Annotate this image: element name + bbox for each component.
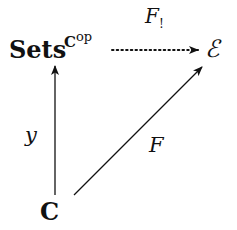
presheaf-exponent: Cop [64,30,92,50]
left-kan-label: F! [145,6,164,30]
left-kan-subscript: ! [159,17,164,31]
presheaf-category-label: Sets [9,38,66,62]
functor-arrow [74,67,202,195]
category-label: C [40,200,59,224]
functor-label: F [149,135,164,156]
sets-text: Sets [9,35,66,64]
exponent-category: C [64,33,76,51]
left-kan-main: F [145,4,159,28]
yoneda-label: y [25,125,37,146]
topos-label: ℰ [205,37,220,61]
op-superscript: op [76,29,92,44]
